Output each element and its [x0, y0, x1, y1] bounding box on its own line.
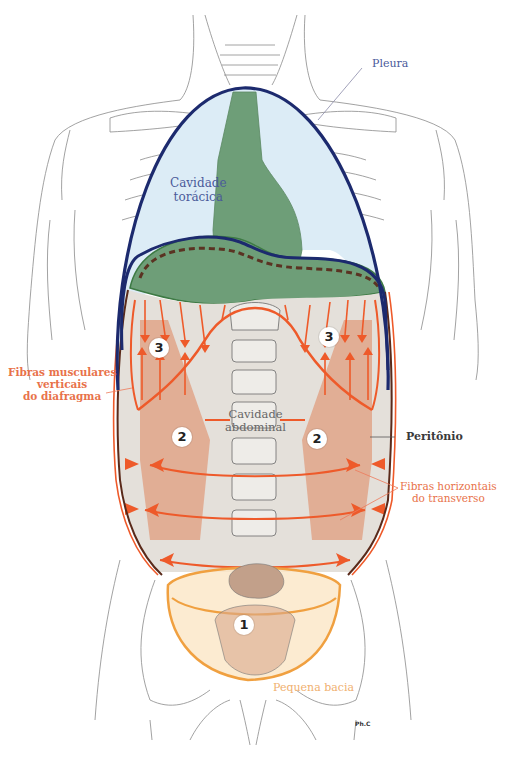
label-thoracic-cavity: Cavidade torácica — [170, 177, 227, 205]
label-vertical-line3: do diafragma — [8, 390, 116, 402]
label-pleura: Pleura — [372, 58, 408, 71]
marker-2-left: 2 — [172, 427, 192, 447]
leader-lines — [318, 68, 362, 120]
marker-1: 1 — [234, 615, 254, 635]
marker-2-right: 2 — [307, 429, 327, 449]
marker-3-left: 3 — [149, 338, 169, 358]
label-abdominal-cavity: Cavidade abdominal — [225, 408, 286, 434]
anatomy-diagram: Pleura Cavidade torácica Cavidade abdomi… — [0, 0, 506, 759]
label-vertical-fibers: Fibras musculares verticais do diafragma — [8, 366, 116, 402]
marker-3-right: 3 — [319, 327, 339, 347]
label-thoracic-line1: Cavidade — [170, 177, 227, 191]
label-horizontal-fibers: Fibras horizontais do transverso — [400, 480, 497, 504]
label-horizontal-line2: do transverso — [400, 492, 497, 504]
label-abdominal-line2: abdominal — [225, 421, 286, 434]
label-vertical-line1: Fibras musculares — [8, 366, 116, 378]
label-vertical-line2: verticais — [8, 378, 116, 390]
label-horizontal-line1: Fibras horizontais — [400, 480, 497, 492]
label-small-pelvis: Pequena bacia — [273, 682, 354, 695]
label-peritoneum: Peritônio — [406, 431, 463, 444]
artist-signature: Ph.C — [355, 720, 370, 727]
label-thoracic-line2: torácica — [170, 191, 227, 205]
intestine — [229, 564, 284, 599]
